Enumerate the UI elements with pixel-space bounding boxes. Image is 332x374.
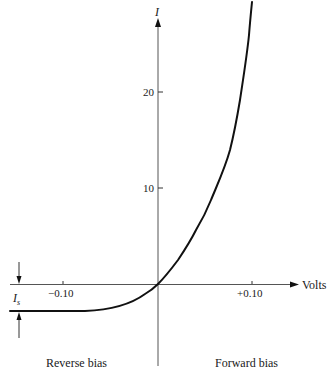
diode-iv-chart: I Volts 20 10 −0.10 +0.10 Is Reverse bia… [0,0,332,374]
x-axis-arrow-icon [290,282,299,288]
y-tick-label-20: 20 [143,87,154,98]
saturation-current-subscript: s [17,298,20,307]
y-axis-arrow-icon [155,18,161,27]
forward-bias-label: Forward bias [215,357,278,369]
is-bottom-arrow-icon [17,312,22,320]
x-axis-label: Volts [302,279,326,291]
is-top-arrow-icon [17,276,22,284]
x-tick-label-pos: +0.10 [237,288,262,299]
x-tick-label-neg: −0.10 [48,288,73,299]
chart-canvas [0,0,332,374]
y-axis-label: I [155,6,159,18]
y-tick-label-10: 10 [143,183,154,194]
reverse-bias-label: Reverse bias [46,357,107,369]
saturation-current-label: Is [13,292,20,307]
iv-curve [10,2,252,311]
